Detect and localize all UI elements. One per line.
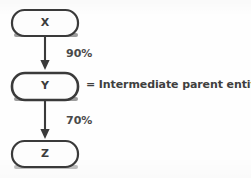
legend-intermediate-parent-entity: = Intermediate parent entity	[86, 79, 251, 90]
node-z-label: Z	[12, 148, 78, 159]
node-y-label: Y	[12, 80, 78, 91]
edge-x-to-y	[40, 36, 49, 70]
edge-y-to-z-label: 70%	[66, 115, 92, 126]
diagram-canvas: X Y Z 90% 70% = Intermediate parent enti…	[0, 0, 251, 178]
edge-y-to-z	[40, 100, 49, 139]
edge-x-to-y-label: 90%	[66, 48, 92, 59]
node-x-label: X	[12, 17, 78, 28]
